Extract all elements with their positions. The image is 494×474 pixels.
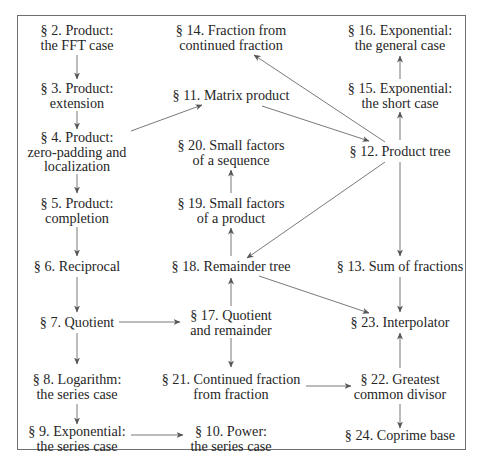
node-s2: § 2. Product: the FFT case [40, 23, 113, 52]
node-s4-line2: zero-padding and [28, 145, 127, 160]
node-s13-line1: § 13. Sum of fractions [337, 259, 464, 274]
node-s24: § 24. Coprime base [345, 428, 455, 443]
node-s2-line2: the FFT case [40, 37, 113, 52]
edge-s4-s11 [131, 105, 202, 131]
node-s15-line2: the short case [348, 95, 452, 110]
node-s8: § 8. Logarithm: the series case [33, 372, 122, 401]
node-s15-line1: § 15. Exponential: [348, 81, 452, 96]
node-s21-line2: from fraction [162, 386, 301, 401]
node-s10-line1: § 10. Power: [190, 424, 271, 439]
node-s13: § 13. Sum of fractions [337, 259, 464, 274]
node-s11: § 11. Matrix product [173, 88, 290, 103]
node-s23-line1: § 23. Interpolator [351, 315, 450, 330]
node-s19: § 19. Small factors of a product [177, 196, 284, 225]
node-s19-line2: of a product [177, 210, 284, 225]
node-s2-line1: § 2. Product: [40, 23, 113, 38]
node-s5-line1: § 5. Product: [41, 196, 114, 211]
node-s4-line3: localization [28, 159, 127, 174]
node-s16-line2: the general case [348, 37, 452, 52]
node-s23: § 23. Interpolator [351, 315, 450, 330]
node-s12: § 12. Product tree [350, 144, 451, 159]
node-s14-line2: continued fraction [176, 37, 286, 52]
node-s17: § 17. Quotient and remainder [190, 308, 272, 337]
node-s17-line2: and remainder [190, 322, 272, 337]
node-s21-line1: § 21. Continued fraction [162, 372, 301, 387]
node-s21: § 21. Continued fraction from fraction [162, 372, 301, 401]
node-s20: § 20. Small factors of a sequence [177, 138, 284, 167]
dependency-edges [0, 0, 494, 474]
node-s9-line2: the series case [28, 438, 125, 453]
node-s20-line2: of a sequence [177, 152, 284, 167]
node-s10-line2: the series case [190, 438, 271, 453]
node-s22-line1: § 22. Greatest [354, 372, 447, 387]
edge-s18-s23 [259, 276, 369, 313]
node-s4-line1: § 4. Product: [28, 130, 127, 145]
node-s24-line1: § 24. Coprime base [345, 428, 455, 443]
node-s18: § 18. Remainder tree [172, 259, 291, 274]
node-s19-line1: § 19. Small factors [177, 196, 284, 211]
node-s16-line1: § 16. Exponential: [348, 23, 452, 38]
node-s18-line1: § 18. Remainder tree [172, 259, 291, 274]
node-s9: § 9. Exponential: the series case [28, 424, 125, 453]
node-s6: § 6. Reciprocal [34, 259, 120, 274]
node-s15: § 15. Exponential: the short case [348, 81, 452, 110]
node-s22: § 22. Greatest common divisor [354, 372, 447, 401]
node-s5: § 5. Product: completion [41, 196, 114, 225]
node-s14-line1: § 14. Fraction from [176, 23, 286, 38]
node-s22-line2: common divisor [354, 386, 447, 401]
node-s16: § 16. Exponential: the general case [348, 23, 452, 52]
node-s7: § 7. Quotient [40, 315, 114, 330]
node-s9-line1: § 9. Exponential: [28, 424, 125, 439]
node-s5-line2: completion [41, 210, 114, 225]
node-s7-line1: § 7. Quotient [40, 315, 114, 330]
node-s12-line1: § 12. Product tree [350, 144, 451, 159]
node-s14: § 14. Fraction from continued fraction [176, 23, 286, 52]
node-s11-line1: § 11. Matrix product [173, 88, 290, 103]
node-s10: § 10. Power: the series case [190, 424, 271, 453]
node-s3-line1: § 3. Product: [41, 81, 114, 96]
node-s20-line1: § 20. Small factors [177, 138, 284, 153]
node-s4: § 4. Product: zero-padding and localizat… [28, 130, 127, 174]
node-s3: § 3. Product: extension [41, 81, 114, 110]
node-s17-line1: § 17. Quotient [190, 308, 272, 323]
node-s6-line1: § 6. Reciprocal [34, 259, 120, 274]
node-s8-line1: § 8. Logarithm: [33, 372, 122, 387]
node-s8-line2: the series case [33, 386, 122, 401]
node-s3-line2: extension [41, 95, 114, 110]
